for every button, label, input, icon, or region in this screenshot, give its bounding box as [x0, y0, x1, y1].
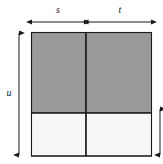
quadrant-bottom-left: [32, 113, 87, 156]
label-u: u: [7, 87, 12, 98]
quadrant-bottom-right: [86, 113, 152, 156]
label-t: t: [119, 4, 122, 15]
label-s: s: [56, 4, 60, 15]
quadrant-top-left: [32, 33, 87, 114]
geometry-figure: s t u: [0, 0, 163, 164]
quadrant-top-right: [86, 33, 152, 114]
figure-canvas: s t u: [0, 0, 163, 164]
